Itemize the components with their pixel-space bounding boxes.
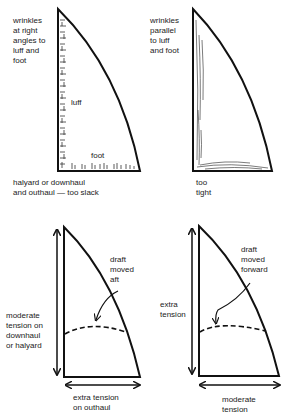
foot-tension-note-aft: extra tension on outhaul <box>73 393 119 413</box>
sail-outline <box>58 9 140 171</box>
sail-draft-aft <box>57 227 140 385</box>
draft-line <box>65 326 126 334</box>
sail-slack <box>58 9 140 171</box>
draft-pointer-arrow <box>96 291 118 320</box>
luff-tension-note-aft: moderate tension on downhaul or halyard <box>6 311 43 351</box>
slack-caption: halyard or downhaul and outhaul — too sl… <box>13 178 99 198</box>
sail-outline <box>193 9 272 171</box>
luff-wrinkles <box>60 20 66 168</box>
draft-forward-note: draft moved forward <box>241 245 268 275</box>
draft-pointer-arrow <box>216 283 250 323</box>
sail-outline <box>64 227 140 377</box>
slack-wrinkle-note: wrinkles at right angles to luff and foo… <box>13 16 45 66</box>
luff-tension-note-forward: extra tension <box>160 300 186 320</box>
foot-label: foot <box>91 151 104 161</box>
tight-caption: too tight <box>196 178 211 198</box>
foot-wrinkles <box>72 163 134 169</box>
draft-aft-note: draft moved aft <box>110 255 134 285</box>
draft-line <box>200 326 266 332</box>
sail-tight <box>193 9 272 171</box>
parallel-wrinkles <box>196 20 268 169</box>
luff-label: luff <box>71 98 82 108</box>
tight-wrinkle-note: wrinkles parallel to luff and foot <box>150 16 179 56</box>
foot-tension-note-forward: moderate tension <box>222 395 256 413</box>
